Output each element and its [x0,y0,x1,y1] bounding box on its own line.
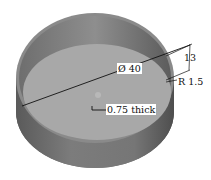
cup-drawing [0,0,211,180]
height-label: 13 [184,52,196,63]
floor-highlight [95,92,101,98]
cup-diagram: Ø 40 13 R 1.5 0.75 thick [0,0,211,180]
radius-label: R 1.5 [178,76,203,87]
thickness-label: 0.75 thick [106,104,156,115]
cup-floor [23,44,171,140]
diameter-label: Ø 40 [117,63,142,74]
